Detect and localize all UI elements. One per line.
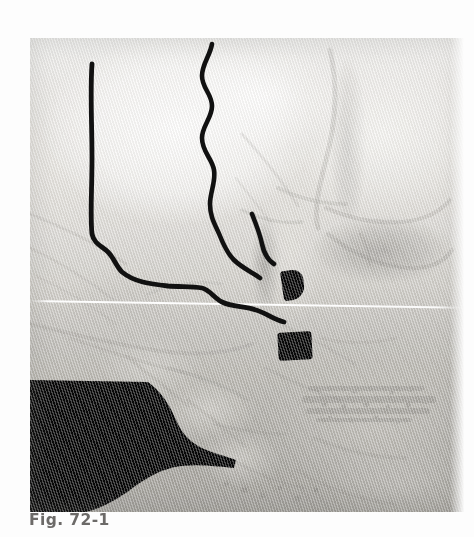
figure-caption: Fig. 72-1: [29, 511, 110, 529]
ct-scan-image: [30, 38, 464, 512]
plate-right-fade: [450, 38, 464, 512]
plate-vignette: [30, 38, 464, 512]
figure-page: Fig. 72-1: [0, 0, 474, 537]
